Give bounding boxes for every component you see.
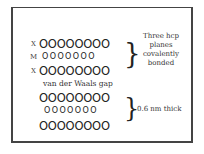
annotation-layer1: Three hcp planes covalently bonded (136, 32, 186, 68)
annotation-line: bonded (136, 59, 186, 68)
atom-row-m: OOOOOOO (42, 52, 96, 61)
annotation-line: planes (136, 41, 186, 50)
thickness-annotation: 0.6 nm thick (137, 105, 181, 114)
row-label-x-top: X (31, 40, 36, 48)
atom-row-layer2-middle: OOOOOOO (44, 106, 98, 115)
atom-row-layer2-top: OOOOOOOO (39, 91, 110, 105)
row-label-m: M (30, 53, 37, 61)
atom-row-layer2-bottom: OOOOOOOO (39, 119, 110, 133)
atom-row-x-bottom: OOOOOOOO (39, 64, 110, 78)
row-label-x-bottom: X (31, 67, 36, 75)
annotation-line: Three hcp (136, 32, 186, 41)
annotation-line: covalently (136, 50, 186, 59)
van-der-waals-gap-label: van der Waals gap (43, 79, 113, 88)
atom-row-x-top: OOOOOOOO (39, 37, 110, 51)
